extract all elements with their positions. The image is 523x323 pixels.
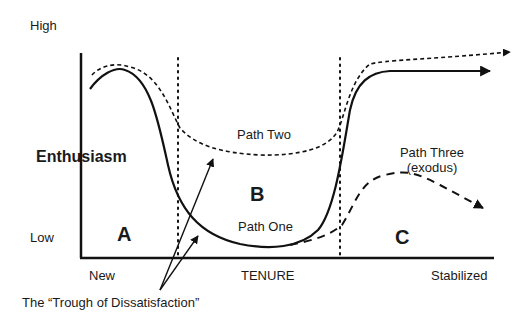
region-c-label: C: [395, 226, 409, 249]
path-two-label: Path Two: [237, 127, 291, 142]
path-three-sublabel: (exodus): [399, 160, 465, 175]
x-axis-label: TENURE: [241, 268, 294, 283]
path-one-label: Path One: [238, 219, 293, 234]
region-a-label: A: [117, 223, 131, 246]
path-three-label: Path Three (exodus): [399, 145, 465, 175]
y-axis-low-label: Low: [30, 230, 54, 245]
trough-annotation: The “Trough of Dissatisfaction”: [22, 295, 199, 310]
x-axis-end-label: Stabilized: [431, 268, 487, 283]
path-three-curve: [290, 172, 483, 245]
trough-arrow-upper: [160, 159, 213, 290]
path-three-title: Path Three: [399, 145, 465, 160]
y-axis-label: Enthusiasm: [36, 148, 127, 166]
y-axis-high-label: High: [30, 18, 57, 33]
region-b-label: B: [250, 183, 264, 206]
path-two-curve: [92, 52, 510, 155]
x-axis-start-label: New: [89, 268, 115, 283]
